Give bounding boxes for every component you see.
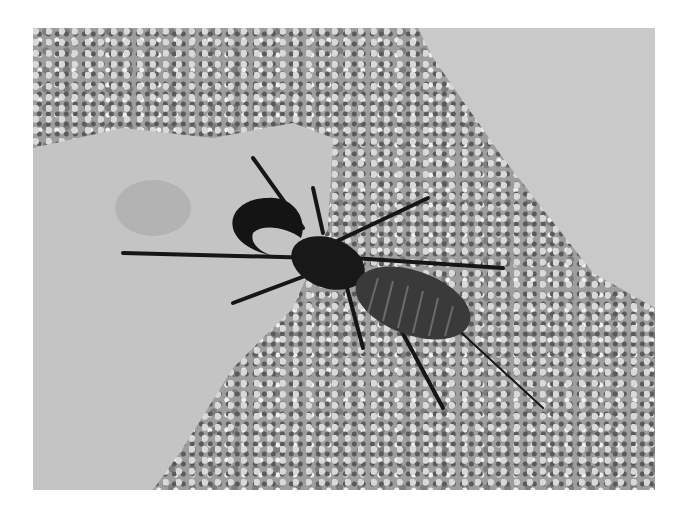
photo xyxy=(33,28,655,490)
scene xyxy=(33,28,655,490)
rock-left xyxy=(33,123,333,490)
